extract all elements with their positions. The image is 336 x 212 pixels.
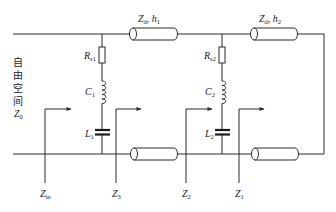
line1-label: Zd, h1 (138, 13, 160, 25)
circuit-diagram: Zd, h1 Zd, h2 Rs1 C1 L1 Rs2 C2 L2 自 由 空 … (0, 0, 336, 212)
line2-label: Zd, h2 (259, 13, 281, 25)
impedance-marker-z2 (186, 109, 212, 183)
impedance-marker-z3 (116, 109, 141, 183)
branch2-capacitor-label: L2 (204, 128, 214, 140)
resistor-icon (219, 47, 225, 63)
top-rail (13, 34, 324, 154)
resistor-icon (99, 47, 105, 63)
shunt-branch-2 (215, 34, 230, 154)
transmission-line-top-1 (130, 28, 178, 40)
shunt-branch-1 (95, 34, 110, 154)
impedance-marker-z1 (239, 109, 264, 183)
free-space-label: 自 由 空 间 Z0 (13, 56, 23, 120)
branch2-resistor-label: Rs2 (203, 50, 216, 62)
zin-label: Zin (40, 188, 51, 200)
coil-icon (222, 81, 226, 104)
branch1-capacitor-label: L1 (84, 128, 94, 140)
branch2-coil-label: C2 (205, 86, 215, 98)
svg-text:由: 由 (13, 69, 23, 81)
transmission-line-bottom-1 (131, 148, 178, 160)
transmission-line-bottom-2 (252, 148, 299, 160)
branch1-coil-label: C1 (85, 86, 95, 98)
svg-text:间: 间 (13, 95, 23, 107)
z1-label: Z1 (235, 188, 244, 200)
svg-text:自: 自 (13, 56, 23, 68)
z2-label: Z2 (182, 188, 191, 200)
transmission-line-top-2 (251, 28, 298, 40)
coil-icon (102, 81, 106, 104)
impedance-marker-zin (45, 109, 71, 183)
svg-text:Z0: Z0 (14, 108, 23, 120)
svg-text:空: 空 (13, 82, 23, 94)
branch1-resistor-label: Rs1 (83, 50, 96, 62)
z3-label: Z3 (112, 188, 121, 200)
